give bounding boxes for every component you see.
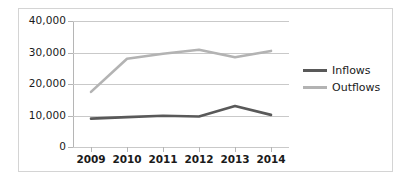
legend-swatch-icon — [303, 69, 327, 72]
x-axis-tick — [271, 147, 272, 152]
x-axis-tick — [163, 147, 164, 152]
y-axis-tick-label: 10,000 — [29, 110, 66, 121]
y-axis-tick — [68, 147, 73, 148]
legend-label: Inflows — [332, 64, 371, 77]
x-axis-tick-label: 2010 — [107, 153, 147, 165]
y-axis-tick-label: 40,000 — [29, 15, 66, 26]
series-lines — [73, 21, 289, 147]
chart-legend: InflowsOutflows — [303, 62, 391, 96]
y-axis-labels: 010,00020,00030,00040,000 — [14, 0, 66, 185]
x-axis-tick — [199, 147, 200, 152]
series-line-outflows — [91, 50, 271, 92]
series-line-inflows — [91, 106, 271, 119]
x-axis-tick-label: 2009 — [71, 153, 111, 165]
x-axis-tick — [235, 147, 236, 152]
x-axis-tick-label: 2013 — [215, 153, 255, 165]
plot-area — [73, 21, 289, 147]
x-axis-tick-label: 2011 — [143, 153, 183, 165]
legend-label: Outflows — [332, 81, 380, 94]
x-axis-tick — [91, 147, 92, 152]
legend-swatch-icon — [303, 86, 327, 89]
y-axis-tick-label: 30,000 — [29, 47, 66, 58]
legend-item-inflows[interactable]: Inflows — [303, 62, 391, 79]
x-axis-tick — [127, 147, 128, 152]
x-axis-tick-label: 2012 — [179, 153, 219, 165]
gridline — [73, 147, 289, 148]
y-axis-tick-label: 20,000 — [29, 78, 66, 89]
chart-container: 010,00020,00030,00040,000 20092010201120… — [0, 0, 411, 185]
y-axis-tick-label: 0 — [59, 141, 66, 152]
x-axis-tick-label: 2014 — [251, 153, 291, 165]
legend-item-outflows[interactable]: Outflows — [303, 79, 391, 96]
